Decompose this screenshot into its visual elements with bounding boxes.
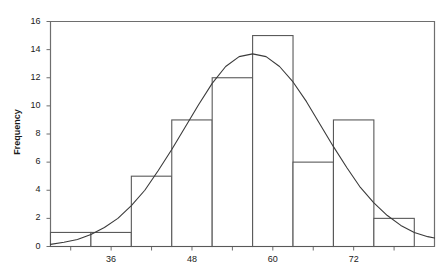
y-tick-label: 0 <box>19 241 41 251</box>
y-tick-label: 12 <box>19 72 41 82</box>
histogram-bar <box>374 218 414 246</box>
histogram-bar <box>212 78 252 247</box>
plot-area <box>0 0 446 276</box>
histogram-chart: Frequency 0246810121416 36486072 <box>0 0 446 276</box>
y-tick-label: 10 <box>19 100 41 110</box>
y-tick-label: 8 <box>19 128 41 138</box>
histogram-bar <box>333 120 373 247</box>
histogram-bar <box>253 36 293 247</box>
histogram-bar <box>51 232 91 246</box>
y-tick-label: 6 <box>19 156 41 166</box>
x-tick-label: 72 <box>342 254 366 264</box>
x-tick-label: 36 <box>99 254 123 264</box>
y-tick-label: 2 <box>19 212 41 222</box>
histogram-bar <box>293 162 333 246</box>
histogram-bar <box>91 232 131 246</box>
y-tick-label: 14 <box>19 44 41 54</box>
x-tick-label: 48 <box>180 254 204 264</box>
histogram-bars <box>51 36 415 247</box>
x-tick-label: 60 <box>261 254 285 264</box>
y-tick-label: 16 <box>19 16 41 26</box>
y-tick-label: 4 <box>19 184 41 194</box>
histogram-bar <box>131 176 171 246</box>
